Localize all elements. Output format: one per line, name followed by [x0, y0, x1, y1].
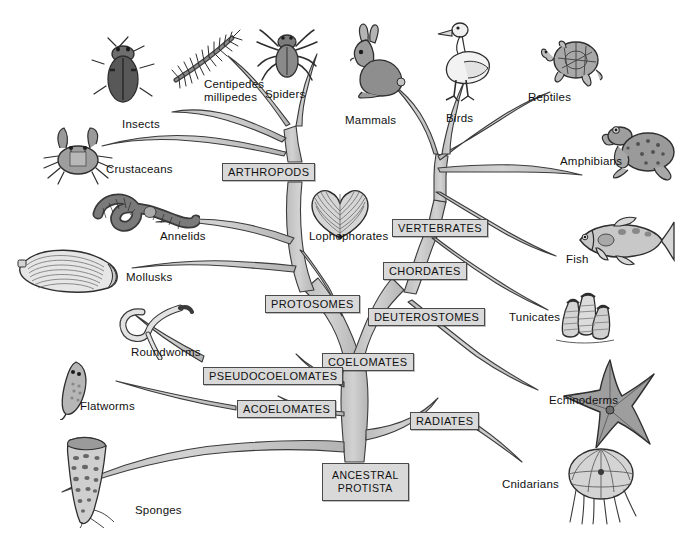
node-label-deuterostomes[interactable]: DEUTEROSTOMES: [368, 308, 485, 326]
taxon-label-fish: Fish: [566, 253, 589, 265]
taxon-label-cnidarians: Cnidarians: [502, 478, 559, 490]
taxon-label-echinoderms: Echinoderms: [549, 394, 618, 406]
taxon-label-mollusks: Mollusks: [126, 271, 172, 283]
taxon-label-tunicates: Tunicates: [509, 311, 560, 323]
jellyfish-icon: [558, 442, 644, 526]
taxon-label-spiders: Spiders: [265, 88, 305, 100]
turtle-icon: [538, 32, 606, 90]
node-label-chordates[interactable]: CHORDATES: [383, 262, 467, 280]
branch-arthropods-stem: [284, 126, 302, 162]
spider-icon: [256, 28, 318, 84]
taxon-label-amphibians: Amphibians: [560, 155, 622, 167]
frog-icon: [598, 118, 684, 182]
taxon-label-birds: Birds: [446, 112, 473, 124]
node-label-ancestral-protista[interactable]: ANCESTRAL PROTISTA: [322, 463, 409, 501]
phylogenetic-tree-figure: Insects Centipedes millipedes Spiders Cr…: [0, 0, 692, 538]
crab-icon: [42, 122, 114, 186]
node-label-arthropods[interactable]: ARTHROPODS: [222, 163, 315, 181]
taxon-label-centipedes: Centipedes millipedes: [204, 78, 264, 104]
sponge-icon: [52, 432, 122, 528]
taxon-label-reptiles: Reptiles: [528, 91, 571, 103]
bird-icon: [434, 16, 496, 104]
taxon-label-roundworms: Roundworms: [131, 346, 201, 358]
node-label-radiates[interactable]: RADIATES: [410, 412, 479, 430]
beetle-icon: [88, 34, 158, 106]
node-label-acoelomates[interactable]: ACOELOMATES: [237, 400, 336, 418]
node-label-protosomes[interactable]: PROTOSOMES: [265, 295, 360, 313]
node-label-pseudocoelomates[interactable]: PSEUDOCOELOMATES: [203, 367, 343, 385]
clam-icon: [8, 240, 126, 302]
taxon-label-lophophorates: Lophophorates: [309, 230, 388, 242]
rabbit-icon: [344, 22, 408, 100]
taxon-label-mammals: Mammals: [345, 114, 396, 126]
figure-caption: [0, 522, 692, 538]
node-label-vertebrates[interactable]: VERTEBRATES: [392, 219, 488, 237]
taxon-label-crustaceans: Crustaceans: [106, 163, 173, 175]
taxon-label-sponges: Sponges: [135, 504, 182, 516]
taxon-label-annelids: Annelids: [160, 230, 206, 242]
branch-crustaceans: [102, 135, 286, 156]
taxon-label-flatworms: Flatworms: [80, 400, 135, 412]
taxon-label-insects: Insects: [122, 118, 160, 130]
branch-trunk: [341, 358, 368, 462]
